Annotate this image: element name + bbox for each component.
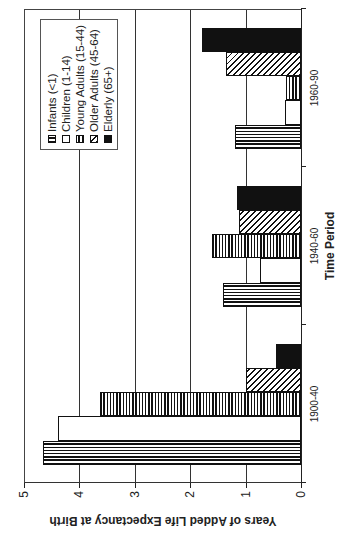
legend-label: Older Adults (45-64) xyxy=(88,29,100,132)
bar-young-1940-60 xyxy=(212,234,301,258)
legend-label: Children (1-14) xyxy=(60,55,72,132)
legend-swatch-icon xyxy=(104,135,112,143)
legend-label: Elderly (65+) xyxy=(102,66,114,132)
value-tick-label: 0 xyxy=(295,491,307,505)
legend-label: Infants (<1) xyxy=(46,74,58,133)
legend: Infants (<1)Children (1-14)Young Adults … xyxy=(40,19,118,150)
value-tick xyxy=(246,483,247,488)
legend-item: Young Adults (15-44) xyxy=(73,26,87,143)
bar-elderly-1900-40 xyxy=(276,344,301,368)
legend-item: Elderly (65+) xyxy=(101,26,115,143)
category-label: 1940-60 xyxy=(309,216,320,276)
category-tick xyxy=(301,482,306,483)
value-tick-label: 4 xyxy=(73,491,85,505)
value-tick-label: 5 xyxy=(18,491,30,505)
category-tick xyxy=(301,324,306,325)
bar-young-1960-90 xyxy=(286,76,301,100)
legend-swatch-icon xyxy=(48,135,56,143)
bar-elderly-1940-60 xyxy=(237,186,301,210)
legend-swatch-icon xyxy=(62,135,70,143)
bar-children-1960-90 xyxy=(285,100,301,124)
bar-children-1900-40 xyxy=(58,416,301,440)
legend-item: Children (1-14) xyxy=(59,26,73,143)
bar-infants-1900-40 xyxy=(43,441,301,465)
value-tick xyxy=(301,483,302,488)
chart-figure: 012345 1900-401940-601960-90 Years of Ad… xyxy=(0,0,350,535)
value-axis-title: Years of Added Life Expectancy at Birth xyxy=(50,514,277,528)
value-tick xyxy=(190,483,191,488)
category-axis-line xyxy=(301,8,302,483)
legend-item: Older Adults (45-64) xyxy=(87,26,101,143)
value-tick-label: 1 xyxy=(240,491,252,505)
category-tick xyxy=(301,8,306,9)
value-tick xyxy=(79,483,80,488)
value-tick xyxy=(24,483,25,488)
legend-swatch-icon xyxy=(76,135,84,143)
category-tick xyxy=(301,166,306,167)
bar-children-1940-60 xyxy=(260,258,301,282)
bar-older-1900-40 xyxy=(246,368,301,392)
legend-swatch-icon xyxy=(90,135,98,143)
value-tick-label: 2 xyxy=(184,491,196,505)
bar-infants-1940-60 xyxy=(223,283,301,307)
legend-item: Infants (<1) xyxy=(45,26,59,143)
bar-young-1900-40 xyxy=(100,392,301,416)
bar-infants-1960-90 xyxy=(235,125,301,149)
category-label: 1900-40 xyxy=(309,374,320,434)
bar-older-1960-90 xyxy=(226,52,301,76)
value-tick-label: 3 xyxy=(129,491,141,505)
bar-elderly-1960-90 xyxy=(202,28,301,52)
legend-label: Young Adults (15-44) xyxy=(74,25,86,132)
value-tick xyxy=(135,483,136,488)
category-axis-title: Time Period xyxy=(323,196,337,296)
bar-older-1940-60 xyxy=(239,210,301,234)
category-label: 1960-90 xyxy=(309,58,320,118)
